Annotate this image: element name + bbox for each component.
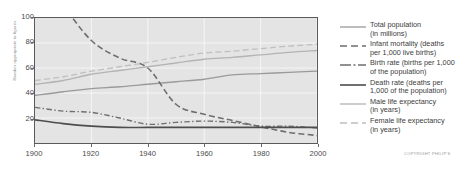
legend-label-line1: Total population: [370, 20, 421, 29]
legend-label: Male life expectancy(in years): [370, 98, 475, 115]
legend-label: Female life expectancy(in years): [370, 117, 475, 134]
legend-line-swatch: [340, 79, 366, 91]
legend-line-swatch: [340, 59, 366, 71]
legend-line-swatch: [340, 98, 366, 110]
series-line: [35, 71, 317, 95]
chart-figure: Number appropriate to figures 2040608010…: [0, 0, 475, 173]
legend-item[interactable]: Death rate (deaths per1,000 of the popul…: [340, 79, 475, 96]
plot-area: [34, 17, 318, 144]
x-tick-label: 1980: [241, 150, 281, 158]
x-tick-label: 2000: [298, 150, 338, 158]
legend-label-line2: (in years): [370, 126, 475, 135]
legend-label: Total population(in millions): [370, 21, 475, 38]
x-tick-mark: [91, 144, 92, 147]
series-line: [35, 51, 317, 85]
x-tick-label: 1960: [184, 150, 224, 158]
x-tick-mark: [261, 144, 262, 147]
legend-item[interactable]: Birth rate (births per 1,000of the popul…: [340, 59, 475, 76]
legend-item[interactable]: Infant mortality (deathsper 1,000 live b…: [340, 40, 475, 57]
legend-line-swatch: [340, 21, 366, 33]
legend-label-line1: Infant mortality (deaths: [370, 39, 444, 48]
legend-item[interactable]: Female life expectancy(in years): [340, 117, 475, 134]
legend-line-swatch: [340, 117, 366, 129]
series-line: [35, 120, 317, 128]
legend-label-line1: Female life expectancy: [370, 116, 445, 125]
legend-label-line2: (in millions): [370, 30, 475, 39]
legend-label-line2: 1,000 of the population): [370, 87, 475, 96]
legend-label: Birth rate (births per 1,000of the popul…: [370, 59, 475, 76]
legend-line-swatch: [340, 40, 366, 52]
chart-canvas: [35, 18, 317, 143]
x-tick-label: 1900: [14, 150, 54, 158]
x-tick-mark: [204, 144, 205, 147]
legend-label-line2: per 1,000 live births): [370, 49, 475, 58]
copyright-notice: COPYRIGHT PHILIP'S: [404, 151, 450, 156]
x-tick-mark: [148, 144, 149, 147]
legend-item[interactable]: Total population(in millions): [340, 21, 475, 38]
legend-label: Death rate (deaths per1,000 of the popul…: [370, 79, 475, 96]
legend-label-line2: of the population): [370, 68, 475, 77]
x-tick-label: 1920: [71, 150, 111, 158]
chart-legend: Total population(in millions)Infant mort…: [340, 21, 475, 136]
x-tick-label: 1940: [128, 150, 168, 158]
legend-item[interactable]: Male life expectancy(in years): [340, 98, 475, 115]
x-tick-mark: [318, 144, 319, 147]
x-tick-mark: [34, 144, 35, 147]
legend-label-line2: (in years): [370, 106, 475, 115]
legend-label: Infant mortality (deathsper 1,000 live b…: [370, 40, 475, 57]
